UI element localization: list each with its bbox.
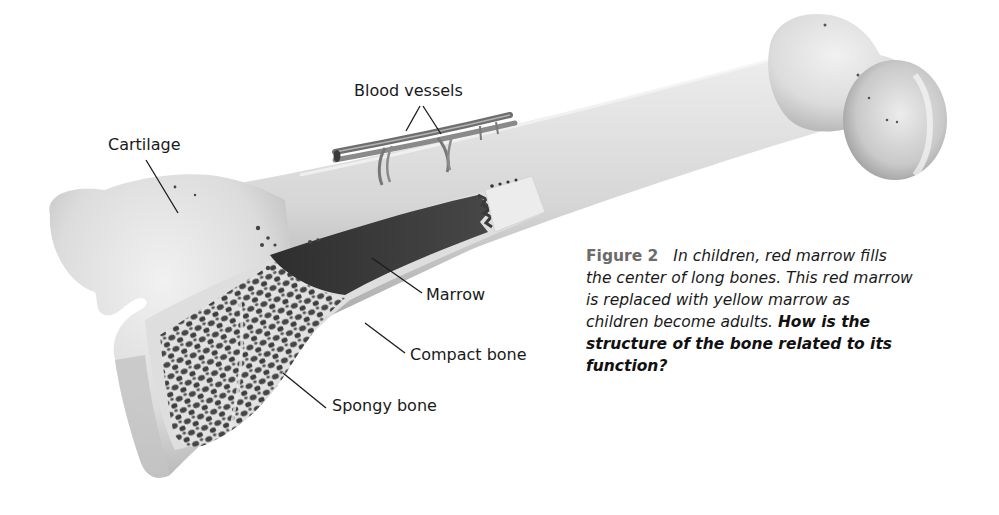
- label-cartilage: Cartilage: [108, 137, 181, 153]
- label-marrow: Marrow: [426, 287, 485, 303]
- figure-caption: Figure 2 In children, red marrow fills t…: [586, 245, 916, 377]
- label-spongy-bone: Spongy bone: [332, 398, 437, 414]
- leader-blood-vessels-1: [406, 106, 420, 131]
- label-compact-bone: Compact bone: [410, 347, 527, 363]
- figure-number: Figure 2: [586, 247, 658, 265]
- bone-proximal-end: [768, 14, 947, 180]
- leader-compact-bone: [365, 323, 405, 353]
- leader-spongy-bone: [283, 373, 326, 408]
- label-blood-vessels: Blood vessels: [354, 83, 463, 99]
- textbook-figure-page: Blood vessels Cartilage Marrow Compact b…: [0, 0, 999, 515]
